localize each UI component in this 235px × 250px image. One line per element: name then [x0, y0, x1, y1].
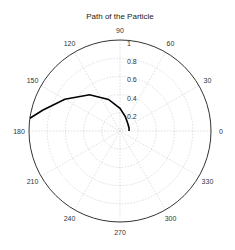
radial-tick-label: 0.2	[127, 113, 137, 120]
chart-title: Path of the Particle	[86, 12, 154, 21]
angle-tick-label: 150	[27, 77, 39, 84]
radial-tick-label: 0.4	[127, 95, 137, 102]
angle-tick-label: 330	[202, 178, 214, 185]
angle-tick-label: 180	[13, 128, 25, 135]
angle-tick-label: 270	[114, 229, 126, 236]
angle-tick-label: 30	[204, 77, 212, 84]
angle-tick-label: 240	[64, 215, 76, 222]
angle-tick-label: 300	[165, 215, 177, 222]
angle-tick-label: 0	[219, 128, 223, 135]
angle-tick-label: 210	[27, 178, 39, 185]
angle-tick-label: 60	[167, 40, 175, 47]
angle-tick-label: 90	[116, 27, 124, 34]
polar-chart: Path of the Particle 0.20.40.60.81030609…	[0, 0, 235, 250]
radial-tick-label: 1	[127, 40, 131, 47]
radial-tick-label: 0.8	[127, 58, 137, 65]
polar-grid	[29, 40, 211, 222]
particle-path-line	[30, 95, 129, 131]
radial-tick-label: 0.6	[127, 76, 137, 83]
angle-tick-label: 120	[64, 40, 76, 47]
